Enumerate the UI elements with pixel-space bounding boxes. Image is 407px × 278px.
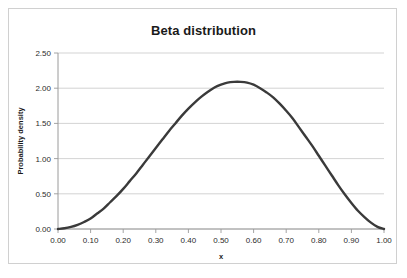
x-axis-label: x xyxy=(219,252,224,261)
y-tick-label: 0.00 xyxy=(35,225,51,234)
x-tick-label: 0.10 xyxy=(83,236,99,245)
x-axis-ticks: 0.000.100.200.300.400.500.600.700.800.90… xyxy=(50,229,392,245)
y-tick-label: 1.00 xyxy=(35,155,51,164)
chart-frame: Beta distribution 0.000.501.001.502.002.… xyxy=(8,8,397,264)
beta-distribution-chart: 0.000.501.001.502.002.50 0.000.100.200.3… xyxy=(9,9,398,265)
x-tick-label: 0.70 xyxy=(278,236,294,245)
beta-density-curve xyxy=(58,82,384,229)
x-tick-label: 0.20 xyxy=(115,236,131,245)
gridlines xyxy=(58,53,384,229)
x-tick-label: 0.90 xyxy=(344,236,360,245)
x-tick-label: 0.80 xyxy=(311,236,327,245)
x-tick-label: 0.60 xyxy=(246,236,262,245)
y-tick-label: 1.50 xyxy=(35,119,51,128)
x-tick-label: 1.00 xyxy=(376,236,392,245)
y-axis-label: Probability density xyxy=(16,107,25,175)
x-tick-label: 0.30 xyxy=(148,236,164,245)
y-tick-label: 0.50 xyxy=(35,190,51,199)
x-tick-label: 0.00 xyxy=(50,236,66,245)
x-tick-label: 0.40 xyxy=(181,236,197,245)
y-axis-ticks: 0.000.501.001.502.002.50 xyxy=(35,49,58,234)
y-tick-label: 2.50 xyxy=(35,49,51,58)
y-tick-label: 2.00 xyxy=(35,84,51,93)
x-tick-label: 0.50 xyxy=(213,236,229,245)
